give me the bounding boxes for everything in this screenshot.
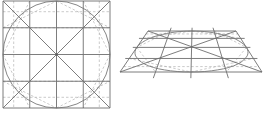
grid-line-vertical: [191, 28, 192, 78]
dashed-construction-line: [137, 47, 156, 72]
diagonal-line: [148, 31, 262, 72]
perspective-grid-diagram: [0, 0, 263, 113]
center-point: [56, 54, 58, 56]
perspective-trapezoid-panel: [120, 28, 262, 78]
flat-square-panel: [3, 1, 110, 108]
